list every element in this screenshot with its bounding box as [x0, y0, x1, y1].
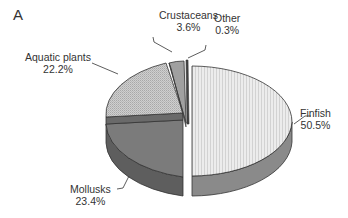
label-finfish: Finfish 50.5%	[300, 107, 331, 131]
slice-mollusks	[106, 120, 183, 196]
slice-other	[186, 60, 189, 124]
label-other: Other 0.3%	[214, 12, 240, 36]
label-mollusks-value: 23.4%	[70, 195, 111, 207]
label-aquatic-plants: Aquatic plants 22.2%	[25, 51, 91, 75]
label-crustaceans: Crustaceans 3.6%	[159, 9, 218, 33]
label-finfish-value: 50.5%	[300, 119, 331, 131]
slice-finfish	[192, 66, 292, 196]
label-other-name: Other	[214, 12, 240, 24]
label-other-value: 0.3%	[214, 24, 240, 36]
label-finfish-name: Finfish	[300, 107, 331, 119]
label-crustaceans-name: Crustaceans	[159, 9, 218, 21]
label-mollusks: Mollusks 23.4%	[70, 183, 111, 207]
label-aquatic-plants-value: 22.2%	[25, 63, 91, 75]
label-crustaceans-value: 3.6%	[159, 21, 218, 33]
label-mollusks-name: Mollusks	[70, 183, 111, 195]
label-aquatic-plants-name: Aquatic plants	[25, 51, 91, 63]
